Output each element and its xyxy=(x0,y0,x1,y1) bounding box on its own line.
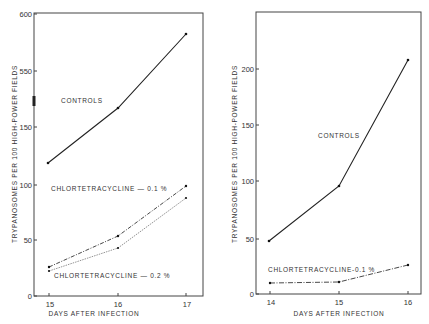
right-drug-0.1-label: CHLORTETRACYCLINE-0.1 % xyxy=(268,266,375,273)
right-ytick-label: 150 xyxy=(241,121,254,130)
left-x-axis-label: DAYS AFTER INFECTION xyxy=(49,310,140,317)
left-ytick-label: 550 xyxy=(19,67,32,76)
left-ytick-label: 0 xyxy=(28,292,32,301)
left-xtick-label: 17 xyxy=(183,300,191,309)
left-axis-break-mark xyxy=(33,96,36,106)
right-controls-line xyxy=(269,60,408,241)
left-drug-0.2-markers xyxy=(48,197,187,272)
figure: 0 50 100 150 550 600 15 16 17 DAYS AFTER… xyxy=(0,0,429,324)
right-xtick-label: 16 xyxy=(404,298,412,307)
right-controls-label: CONTROLS xyxy=(318,132,360,139)
right-plot-frame xyxy=(256,12,421,294)
left-ytick-label: 150 xyxy=(19,123,32,132)
left-y-tick-labels: 0 50 100 150 550 600 xyxy=(19,10,32,301)
left-ytick-label: 50 xyxy=(24,236,32,245)
right-xtick-label: 14 xyxy=(267,298,275,307)
right-chart: 0 50 100 150 200 14 15 16 DAYS AFTER INF… xyxy=(231,12,421,317)
right-x-axis-label: DAYS AFTER INFECTION xyxy=(294,310,385,317)
left-ytick-label: 600 xyxy=(19,10,32,19)
left-x-tick-labels: 15 16 17 xyxy=(46,300,191,309)
right-ytick-label: 100 xyxy=(241,177,254,186)
left-drug-0.1-line xyxy=(49,186,186,267)
right-ytick-label: 50 xyxy=(246,235,254,244)
left-drug-0.1-label: CHLORTETRACYCLINE — 0.1 % xyxy=(51,185,167,192)
left-controls-label: CONTROLS xyxy=(61,97,103,104)
left-ytick-label: 100 xyxy=(19,181,32,190)
right-xtick-label: 15 xyxy=(335,298,343,307)
left-xtick-label: 15 xyxy=(46,300,54,309)
right-ytick-label: 0 xyxy=(250,290,254,299)
left-y-axis-label: TRYPANOSOMES PER 100 HIGH-POWER FIELDS xyxy=(11,65,18,243)
left-drug-0.2-label: CHLORTETRACYCLINE — 0.2 % xyxy=(54,272,170,279)
left-drug-0.2-line xyxy=(49,198,186,271)
right-controls-markers xyxy=(268,59,410,243)
left-chart: 0 50 100 150 550 600 15 16 17 DAYS AFTER… xyxy=(11,10,203,317)
left-xtick-label: 16 xyxy=(114,300,122,309)
left-drug-0.1-markers xyxy=(48,185,187,268)
right-y-axis-label: TRYPANOSOMES PER 100 HIGH-POWER FIELDS xyxy=(231,65,238,243)
right-ytick-label: 200 xyxy=(241,65,254,74)
right-x-tick-labels: 14 15 16 xyxy=(267,298,412,307)
right-y-tick-labels: 0 50 100 150 200 xyxy=(241,65,254,299)
